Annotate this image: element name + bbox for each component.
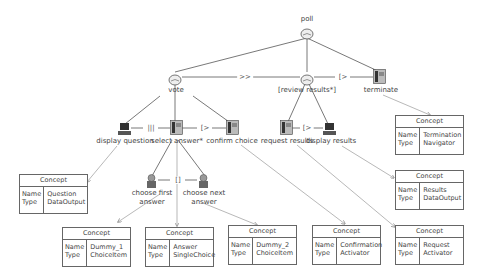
name-key: Name <box>315 241 334 249</box>
concept-header: Concept <box>396 171 463 183</box>
node-label-select-answer: select answer* <box>151 137 203 146</box>
concept-box-answer: Concept NameType AnswerSingleChoice <box>145 227 214 267</box>
type-key: Type <box>398 249 417 257</box>
type-key: Type <box>148 251 167 259</box>
node-label-choose-next-answer: choose next answer <box>183 189 226 207</box>
concept-type: Navigator <box>423 139 461 147</box>
operator-disabling: [> <box>301 124 314 132</box>
concept-name: Dummy_1 <box>90 243 127 251</box>
concept-box-termination: Concept NameType TerminationNavigator <box>395 115 464 155</box>
concept-header: Concept <box>396 116 463 128</box>
concept-box-dummy1: Concept NameType Dummy_1ChoiceItem <box>62 227 131 267</box>
concept-type: Activator <box>423 249 452 257</box>
type-key: Type <box>65 251 84 259</box>
abstract-task-icon <box>300 25 314 44</box>
concept-box-confirmation: Concept NameType ConfirmationActivator <box>312 225 381 265</box>
node-label-confirm-choice: confirm choice <box>206 137 257 146</box>
node-label-display-question: display question <box>96 137 153 146</box>
name-key: Name <box>65 243 84 251</box>
concept-header: Concept <box>396 226 463 238</box>
node-label-review-results: [review results*] <box>278 86 336 95</box>
concept-header: Concept <box>313 226 380 238</box>
label-line: answer <box>139 198 164 206</box>
concept-type: SingleChoice <box>173 251 215 259</box>
name-key: Name <box>398 131 417 139</box>
node-label-vote: vote <box>168 86 183 95</box>
name-key: Name <box>148 243 167 251</box>
name-key: Name <box>398 241 417 249</box>
concept-type: ChoiceItem <box>256 249 293 257</box>
name-key: Name <box>398 186 417 194</box>
tree-edges <box>125 38 380 180</box>
concept-name: Answer <box>173 243 215 251</box>
label-line: answer <box>191 198 216 206</box>
concept-type: Activator <box>340 249 382 257</box>
concept-name: Results <box>423 186 461 194</box>
concept-name: Question <box>47 190 85 198</box>
label-line: choose next <box>183 189 226 197</box>
concept-header: Concept <box>229 226 296 238</box>
operator-disabling: [> <box>199 124 212 132</box>
type-key: Type <box>398 194 417 202</box>
type-key: Type <box>231 249 250 257</box>
concept-type: ChoiceItem <box>90 251 127 259</box>
concept-box-dummy2: Concept NameType Dummy_2ChoiceItem <box>228 225 297 265</box>
concept-box-results: Concept NameType ResultsDataOutput <box>395 170 464 210</box>
concept-type: DataOutput <box>423 194 461 202</box>
type-key: Type <box>398 139 417 147</box>
node-label-display-results: display results <box>306 137 357 146</box>
concept-box-question: Concept NameType QuestionDataOutput <box>19 174 88 214</box>
concept-name: Dummy_2 <box>256 241 293 249</box>
node-label-poll: poll <box>301 15 314 24</box>
concept-name: Request <box>423 241 452 249</box>
operator-disabling: [> <box>337 73 350 81</box>
concept-name: Termination <box>423 131 461 139</box>
concept-box-request: Concept NameType RequestActivator <box>395 225 464 265</box>
concept-type: DataOutput <box>47 198 85 206</box>
concept-links <box>87 95 430 227</box>
name-key: Name <box>22 190 41 198</box>
concept-name: Confirmation <box>340 241 382 249</box>
type-key: Type <box>22 198 41 206</box>
label-line: choose first <box>132 189 173 197</box>
operator-choice: [] <box>173 176 182 184</box>
concept-header: Concept <box>146 228 213 240</box>
operator-concurrent: ||| <box>145 124 156 132</box>
operator-enabling: >> <box>237 73 253 81</box>
node-label-terminate: terminate <box>364 86 398 95</box>
node-label-choose-first-answer: choose first answer <box>132 189 173 207</box>
concept-header: Concept <box>20 175 87 187</box>
type-key: Type <box>315 249 334 257</box>
concept-header: Concept <box>63 228 130 240</box>
name-key: Name <box>231 241 250 249</box>
